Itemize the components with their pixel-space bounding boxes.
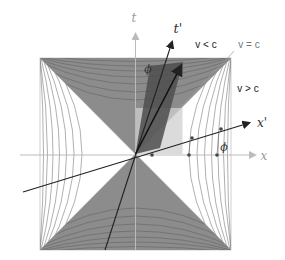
phi-label-top: ϕ: [144, 63, 152, 76]
phi-label-right: ϕ: [220, 141, 228, 154]
spacetime-diagram: t x t' x' ϕ ϕ v < c v = c v > c: [0, 0, 285, 260]
x-prime-label: x': [257, 116, 267, 130]
timelike-region-label: v < c: [195, 39, 216, 50]
spacelike-region-label: v > c: [237, 83, 258, 94]
lightlike-label: v = c: [238, 39, 259, 50]
t-prime-label: t': [174, 21, 183, 36]
x-axis-label: x: [261, 149, 268, 163]
diagram-canvas: t x t' x' ϕ ϕ v < c v = c v > c: [0, 0, 285, 260]
t-axis-label: t: [132, 11, 137, 25]
